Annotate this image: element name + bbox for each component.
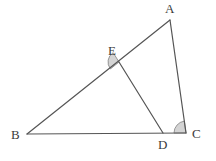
segment-AC (170, 20, 186, 133)
vertex-label-b: B (11, 128, 20, 141)
vertex-label-a: A (165, 2, 174, 15)
geometry-canvas (0, 0, 216, 161)
angle-marks-group (108, 53, 186, 133)
vertex-label-d: D (158, 138, 167, 151)
segment-BC (27, 133, 186, 134)
segments-group (27, 20, 186, 134)
geometry-figure: A B C D E (0, 0, 216, 161)
vertex-label-e: E (108, 44, 116, 57)
segment-BA (27, 20, 170, 134)
segment-ED (119, 62, 163, 133)
vertex-label-c: C (192, 127, 201, 140)
